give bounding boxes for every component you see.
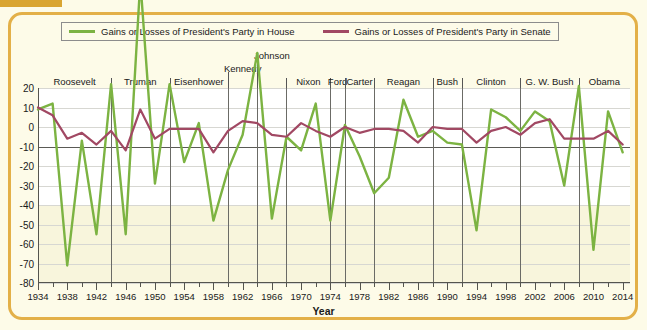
- x-tick-1956: [199, 283, 200, 287]
- x-tick-1948: [140, 283, 141, 287]
- president-label-reagan: Reagan: [387, 76, 420, 87]
- president-tick-bush: [433, 78, 434, 88]
- y-tick-label--30: -30: [20, 180, 34, 191]
- plot-area: [38, 88, 630, 283]
- chart-legend: Gains or Losses of President's Party in …: [61, 22, 559, 41]
- x-tick-2000: [520, 283, 521, 287]
- x-tick-label-1978: 1978: [349, 291, 370, 302]
- x-tick-1994: [477, 283, 478, 290]
- line-swatch-icon: [323, 30, 349, 33]
- x-tick-1960: [228, 283, 229, 287]
- series-line-senate: [38, 108, 623, 153]
- president-tick-kennedy: [228, 72, 229, 88]
- x-tick-label-1990: 1990: [437, 291, 458, 302]
- x-tick-2008: [579, 283, 580, 287]
- x-tick-1986: [418, 283, 419, 290]
- x-tick-label-1982: 1982: [378, 291, 399, 302]
- x-tick-1954: [184, 283, 185, 290]
- president-label-roosevelt: Roosevelt: [53, 76, 95, 87]
- x-tick-1936: [53, 283, 54, 287]
- x-tick-label-1966: 1966: [261, 291, 282, 302]
- x-tick-1972: [316, 283, 317, 287]
- legend-item-house[interactable]: Gains or Losses of President's Party in …: [69, 26, 295, 37]
- x-tick-1992: [462, 283, 463, 287]
- president-label-band: RooseveltTrumanEisenhowerKennedyJohnsonN…: [38, 48, 630, 88]
- x-tick-label-1942: 1942: [86, 291, 107, 302]
- x-tick-label-2014: 2014: [612, 291, 633, 302]
- x-tick-1970: [301, 283, 302, 290]
- x-tick-label-1994: 1994: [466, 291, 487, 302]
- x-tick-label-1938: 1938: [57, 291, 78, 302]
- legend-item-senate[interactable]: Gains or Losses of President's Party in …: [323, 26, 551, 37]
- y-tick-label--80: -80: [20, 278, 34, 289]
- x-tick-1940: [82, 283, 83, 287]
- y-tick-label-0: 0: [28, 122, 34, 133]
- x-tick-1958: [213, 283, 214, 290]
- x-axis-title: Year: [0, 305, 647, 317]
- x-tick-1938: [67, 283, 68, 290]
- y-tick-label--50: -50: [20, 219, 34, 230]
- x-tick-2014: [623, 283, 624, 290]
- x-tick-1950: [155, 283, 156, 290]
- president-label-johnson: Johnson: [254, 50, 290, 61]
- x-tick-1962: [243, 283, 244, 290]
- y-tick-label--20: -20: [20, 161, 34, 172]
- line-swatch-icon: [69, 30, 95, 33]
- top-tab-bar: [0, 0, 62, 7]
- y-tick-label-10: 10: [23, 102, 34, 113]
- x-tick-2002: [535, 283, 536, 290]
- president-tick-reagan: [374, 78, 375, 88]
- x-tick-label-1950: 1950: [144, 291, 165, 302]
- x-tick-label-1934: 1934: [27, 291, 48, 302]
- x-tick-label-1962: 1962: [232, 291, 253, 302]
- y-tick-label--40: -40: [20, 200, 34, 211]
- x-tick-1966: [272, 283, 273, 290]
- x-tick-1974: [330, 283, 331, 290]
- y-tick-label--70: -70: [20, 258, 34, 269]
- x-tick-1980: [374, 283, 375, 287]
- x-tick-2006: [564, 283, 565, 290]
- x-tick-1946: [126, 283, 127, 290]
- president-label-clinton: Clinton: [476, 76, 506, 87]
- president-label-eisenhower: Eisenhower: [174, 76, 224, 87]
- x-tick-1982: [389, 283, 390, 290]
- x-tick-1978: [360, 283, 361, 290]
- x-tick-1984: [403, 283, 404, 287]
- x-tick-2010: [593, 283, 594, 290]
- y-axis-tick-labels: 20100-10-20-30-40-50-60-70-80: [0, 88, 34, 283]
- x-tick-2012: [608, 283, 609, 287]
- president-label-bush: Bush: [436, 76, 458, 87]
- x-tick-label-1946: 1946: [115, 291, 136, 302]
- x-tick-1944: [111, 283, 112, 287]
- president-tick-clinton: [462, 78, 463, 88]
- x-tick-1964: [257, 283, 258, 287]
- y-tick-label--10: -10: [20, 141, 34, 152]
- x-tick-1990: [447, 283, 448, 290]
- president-tick-nixon: [286, 78, 287, 88]
- x-tick-label-1970: 1970: [291, 291, 312, 302]
- president-label-truman: Truman: [124, 76, 156, 87]
- chart-figure: Gains or Losses of President's Party in …: [0, 0, 647, 330]
- legend-label-house: Gains or Losses of President's Party in …: [101, 26, 295, 37]
- y-tick-label-20: 20: [23, 83, 34, 94]
- x-tick-1988: [433, 283, 434, 287]
- data-series-lines: [38, 88, 630, 283]
- x-tick-1952: [170, 283, 171, 287]
- x-tick-1998: [506, 283, 507, 290]
- x-tick-label-1986: 1986: [407, 291, 428, 302]
- x-tick-1942: [96, 283, 97, 290]
- x-tick-label-2010: 2010: [583, 291, 604, 302]
- x-tick-1934: [38, 283, 39, 290]
- x-tick-1968: [286, 283, 287, 287]
- president-label-carter: Carter: [346, 76, 372, 87]
- president-label-g-w-bush: G. W. Bush: [526, 76, 574, 87]
- president-tick-g-w-bush: [520, 78, 521, 88]
- president-label-nixon: Nixon: [296, 76, 320, 87]
- x-tick-label-1954: 1954: [174, 291, 195, 302]
- y-tick-label--60: -60: [20, 239, 34, 250]
- x-tick-label-1958: 1958: [203, 291, 224, 302]
- x-tick-1976: [345, 283, 346, 287]
- president-label-obama: Obama: [589, 76, 620, 87]
- x-tick-label-2002: 2002: [524, 291, 545, 302]
- x-tick-2004: [550, 283, 551, 287]
